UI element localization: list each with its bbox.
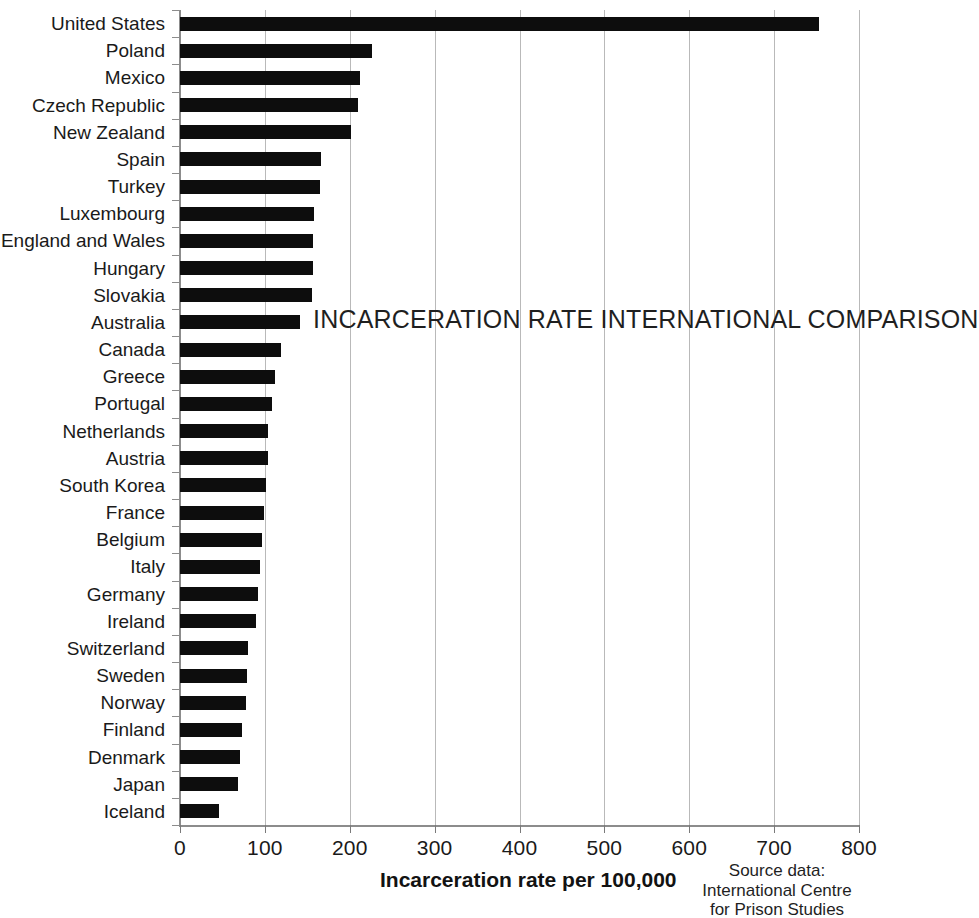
bar bbox=[180, 451, 268, 465]
y-tick-mark bbox=[172, 10, 179, 11]
x-tick-label: 0 bbox=[140, 836, 220, 860]
source-note-line-1: Source data: bbox=[681, 861, 873, 881]
category-label: South Korea bbox=[0, 476, 172, 495]
x-tick-mark-500 bbox=[604, 825, 605, 833]
x-tick-mark-300 bbox=[435, 825, 436, 833]
bar bbox=[180, 533, 262, 547]
gridline-800 bbox=[859, 10, 860, 825]
y-tick-mark bbox=[172, 363, 179, 364]
bar bbox=[180, 424, 268, 438]
y-tick-mark bbox=[172, 445, 179, 446]
bar bbox=[180, 587, 258, 601]
bar bbox=[180, 125, 351, 139]
source-note-line-2: International Centre bbox=[681, 881, 873, 901]
bar bbox=[180, 614, 256, 628]
bar bbox=[180, 777, 238, 791]
y-tick-mark bbox=[172, 92, 179, 93]
category-label: New Zealand bbox=[0, 123, 172, 142]
category-label: Germany bbox=[0, 585, 172, 604]
x-tick-label: 800 bbox=[819, 836, 899, 860]
y-tick-mark bbox=[172, 146, 179, 147]
y-tick-mark bbox=[172, 390, 179, 391]
category-label: Denmark bbox=[0, 748, 172, 767]
category-label: Norway bbox=[0, 693, 172, 712]
category-label: Belgium bbox=[0, 530, 172, 549]
category-label: Finland bbox=[0, 720, 172, 739]
y-tick-mark bbox=[172, 499, 179, 500]
y-tick-mark bbox=[172, 744, 179, 745]
bar bbox=[180, 669, 247, 683]
gridline-500 bbox=[604, 10, 605, 825]
category-label: Mexico bbox=[0, 68, 172, 87]
y-tick-mark bbox=[172, 200, 179, 201]
y-tick-mark bbox=[172, 255, 179, 256]
category-label: Greece bbox=[0, 367, 172, 386]
bar bbox=[180, 723, 242, 737]
category-label: Turkey bbox=[0, 177, 172, 196]
bar bbox=[180, 288, 312, 302]
y-tick-mark bbox=[172, 472, 179, 473]
category-label: France bbox=[0, 503, 172, 522]
y-tick-mark bbox=[172, 771, 179, 772]
y-tick-mark bbox=[172, 173, 179, 174]
x-tick-label: 100 bbox=[225, 836, 305, 860]
y-tick-mark bbox=[172, 798, 179, 799]
category-label: Austria bbox=[0, 449, 172, 468]
y-tick-mark bbox=[172, 635, 179, 636]
y-tick-mark bbox=[172, 526, 179, 527]
x-axis-title: Incarceration rate per 100,000 bbox=[380, 868, 677, 892]
x-tick-mark-0 bbox=[180, 825, 181, 833]
category-label: Hungary bbox=[0, 259, 172, 278]
x-tick-label: 600 bbox=[649, 836, 729, 860]
category-label: Poland bbox=[0, 41, 172, 60]
y-tick-mark bbox=[172, 309, 179, 310]
category-label: England and Wales bbox=[0, 231, 172, 250]
bar bbox=[180, 641, 248, 655]
bar bbox=[180, 44, 372, 58]
bar bbox=[180, 98, 358, 112]
gridline-400 bbox=[520, 10, 521, 825]
plot-area bbox=[180, 10, 859, 825]
x-tick-label: 700 bbox=[734, 836, 814, 860]
y-tick-mark bbox=[172, 553, 179, 554]
gridline-700 bbox=[774, 10, 775, 825]
x-tick-mark-600 bbox=[689, 825, 690, 833]
category-label: Canada bbox=[0, 340, 172, 359]
x-tick-mark-200 bbox=[350, 825, 351, 833]
bar bbox=[180, 696, 246, 710]
category-label: Ireland bbox=[0, 612, 172, 631]
y-tick-mark bbox=[172, 282, 179, 283]
category-label: United States bbox=[0, 14, 172, 33]
x-tick-mark-800 bbox=[859, 825, 860, 833]
y-tick-mark bbox=[172, 581, 179, 582]
bar bbox=[180, 478, 266, 492]
category-label: Slovakia bbox=[0, 286, 172, 305]
source-note: Source data: International Centre for Pr… bbox=[681, 861, 873, 918]
x-tick-mark-400 bbox=[520, 825, 521, 833]
y-tick-mark bbox=[172, 227, 179, 228]
category-label: Australia bbox=[0, 313, 172, 332]
gridline-600 bbox=[689, 10, 690, 825]
y-tick-mark bbox=[172, 119, 179, 120]
category-label: Iceland bbox=[0, 802, 172, 821]
y-tick-mark bbox=[172, 336, 179, 337]
bar bbox=[180, 506, 264, 520]
category-label: Switzerland bbox=[0, 639, 172, 658]
y-tick-mark bbox=[172, 418, 179, 419]
bar bbox=[180, 750, 240, 764]
bar bbox=[180, 315, 300, 329]
category-label: Portugal bbox=[0, 394, 172, 413]
chart-title: INCARCERATION RATE INTERNATIONAL COMPARI… bbox=[313, 305, 979, 333]
bar bbox=[180, 397, 272, 411]
bar bbox=[180, 261, 313, 275]
y-tick-mark bbox=[172, 689, 179, 690]
y-tick-mark bbox=[172, 662, 179, 663]
bar bbox=[180, 234, 313, 248]
category-label: Czech Republic bbox=[0, 96, 172, 115]
x-tick-label: 200 bbox=[310, 836, 390, 860]
y-tick-mark bbox=[172, 825, 179, 826]
bar bbox=[180, 560, 260, 574]
bar bbox=[180, 71, 360, 85]
category-label: Japan bbox=[0, 775, 172, 794]
x-tick-mark-100 bbox=[265, 825, 266, 833]
